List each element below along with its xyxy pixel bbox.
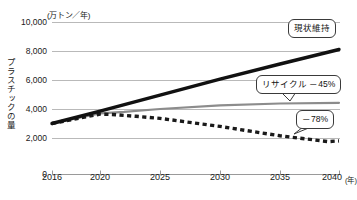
callout-recycle-45[interactable]: リサイクル －45% — [256, 75, 341, 94]
callout-status-quo[interactable]: 現状維持 — [288, 19, 336, 38]
callout-minus-78[interactable]: －78% — [296, 110, 334, 129]
